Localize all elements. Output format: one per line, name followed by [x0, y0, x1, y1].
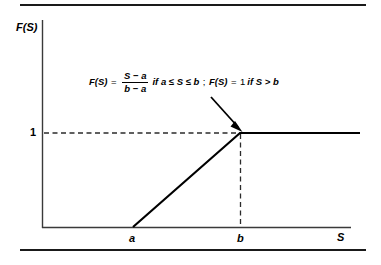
- formula-function-name-2: F(S): [208, 77, 228, 87]
- formula-condition-2: if S > b: [246, 77, 279, 87]
- y-axis-tick-label-1: 1: [30, 127, 36, 138]
- function-curve: [133, 133, 360, 227]
- y-axis-label: F(S): [16, 22, 37, 33]
- formula-numerator: S − a: [122, 71, 148, 82]
- figure-container: F(S) S 1 a b F(S) = S − a b − a if a ≤ S…: [0, 0, 381, 265]
- x-axis-tick-label-a: a: [129, 233, 135, 244]
- formula-function-name-1: F(S): [88, 77, 108, 87]
- annotation-arrow: [211, 97, 243, 132]
- x-axis-label: S: [337, 232, 344, 243]
- plot-area: [0, 0, 381, 265]
- formula-denominator: b − a: [122, 83, 148, 94]
- formula-separator: ;: [200, 77, 208, 87]
- x-axis-tick-label-b: b: [237, 233, 244, 244]
- formula-condition-1: if a ≤ S ≤ b: [151, 77, 200, 87]
- formula-fraction: S − a b − a: [122, 71, 148, 93]
- formula-equals-2: =: [228, 77, 239, 87]
- formula-equals-1: =: [108, 77, 119, 87]
- formula-annotation: F(S) = S − a b − a if a ≤ S ≤ b ; F(S) =…: [88, 71, 280, 93]
- formula-value-2: 1: [239, 77, 246, 87]
